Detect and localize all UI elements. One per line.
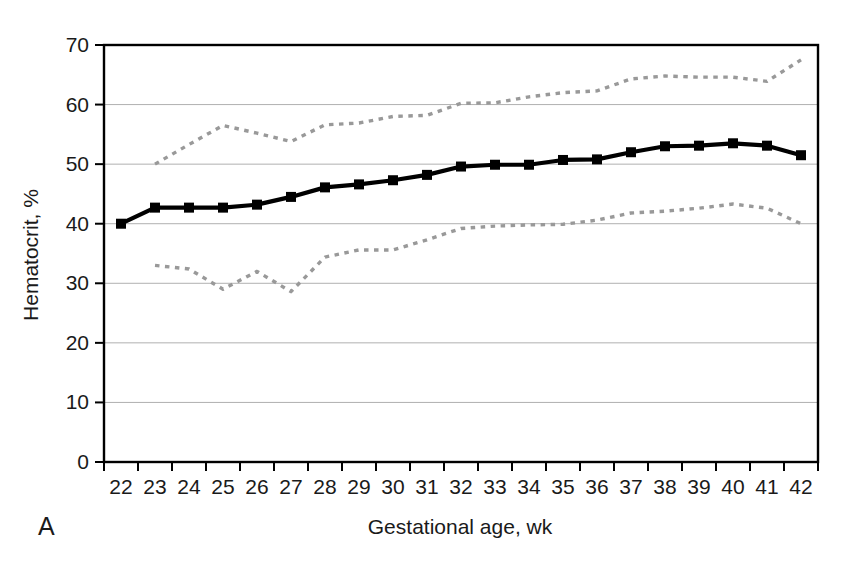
x-tick-label: 36 — [585, 475, 608, 498]
x-tick-label: 39 — [687, 475, 710, 498]
series-marker — [728, 138, 738, 148]
series-marker — [762, 141, 772, 151]
x-tick-label: 22 — [109, 475, 132, 498]
x-tick-label: 24 — [177, 475, 201, 498]
series-marker — [150, 203, 160, 213]
series-marker — [456, 162, 466, 172]
series-marker — [252, 200, 262, 210]
x-axis-title: Gestational age, wk — [368, 515, 553, 538]
series-marker — [320, 182, 330, 192]
x-tick-label: 25 — [211, 475, 234, 498]
series-marker — [490, 160, 500, 170]
x-tick-label: 31 — [415, 475, 438, 498]
series-marker — [796, 150, 806, 160]
x-tick-label: 32 — [449, 475, 472, 498]
series-marker — [626, 147, 636, 157]
series-marker — [422, 170, 432, 180]
series-marker — [592, 154, 602, 164]
series-marker — [116, 219, 126, 229]
series-marker — [218, 203, 228, 213]
y-tick-label: 40 — [66, 212, 89, 235]
y-tick-label: 20 — [66, 331, 89, 354]
x-tick-label: 34 — [517, 475, 541, 498]
y-axis-title: Hematocrit, % — [19, 189, 42, 321]
x-tick-label: 38 — [653, 475, 676, 498]
x-tick-label: 29 — [347, 475, 370, 498]
series-marker — [388, 175, 398, 185]
series-marker — [524, 160, 534, 170]
series-marker — [694, 141, 704, 151]
x-tick-label: 30 — [381, 475, 404, 498]
panel-letter: A — [38, 512, 55, 540]
y-tick-label: 0 — [77, 450, 89, 473]
x-tick-label: 23 — [143, 475, 166, 498]
y-tick-label: 30 — [66, 271, 89, 294]
x-tick-label: 40 — [721, 475, 744, 498]
series-marker — [558, 155, 568, 165]
y-tick-label: 60 — [66, 93, 89, 116]
figure-panel: 010203040506070 222324252627282930313233… — [0, 0, 860, 570]
series-marker — [354, 179, 364, 189]
x-tick-label: 27 — [279, 475, 302, 498]
x-tick-label: 42 — [789, 475, 812, 498]
hematocrit-chart: 010203040506070 222324252627282930313233… — [0, 0, 860, 570]
series-marker — [660, 141, 670, 151]
y-tick-label: 70 — [66, 33, 89, 56]
y-tick-label: 10 — [66, 390, 89, 413]
x-tick-label: 28 — [313, 475, 336, 498]
x-tick-label: 26 — [245, 475, 268, 498]
y-tick-label: 50 — [66, 152, 89, 175]
x-tick-label: 41 — [755, 475, 778, 498]
x-tick-label: 35 — [551, 475, 574, 498]
x-axis-tick-labels: 2223242526272829303132333435363738394041… — [109, 475, 812, 498]
x-tick-label: 37 — [619, 475, 642, 498]
x-tick-label: 33 — [483, 475, 506, 498]
series-marker — [286, 192, 296, 202]
series-marker — [184, 203, 194, 213]
